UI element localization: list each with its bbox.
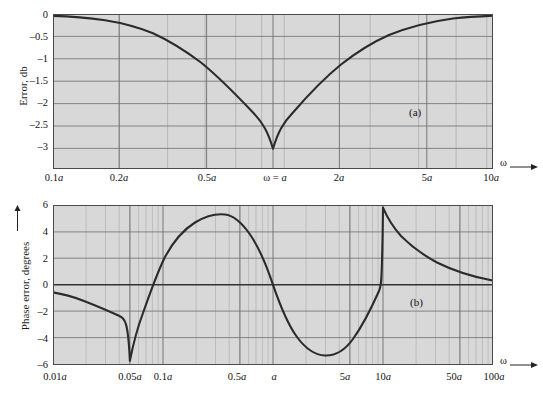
panel-b-plot-area bbox=[53, 205, 493, 365]
panel-b-ytick-1: 4 bbox=[18, 226, 48, 237]
panel-b-ytick-6: –6 bbox=[18, 359, 48, 370]
panel-a-ytick-1-text: –0.5 bbox=[30, 31, 48, 42]
panel-b-xtick-2: 0.1a bbox=[142, 371, 184, 382]
panel-a-ytick-5: –2.5 bbox=[18, 119, 48, 130]
panel-b-xtick-3-text: 0.5a bbox=[228, 371, 246, 382]
panel-b-ytick-0: 6 bbox=[18, 199, 48, 210]
panel-b-omega-axis-label: ω bbox=[500, 355, 507, 366]
panel-b-ytick-5-text: –4 bbox=[38, 333, 49, 344]
panel-a-xtick-2: 0.5a bbox=[184, 172, 230, 183]
panel-b-xtick-0-text: 0.01a bbox=[43, 371, 67, 382]
panel-a-xtick-4: 2a bbox=[316, 172, 362, 183]
panel-b-tag-text: (b) bbox=[410, 296, 423, 308]
panel-b-xtick-6: 10a bbox=[365, 371, 401, 382]
panel-a-xtick-0: 0.1a bbox=[31, 172, 77, 183]
panel-a-xtick-6-text: 10a bbox=[483, 172, 499, 183]
panel-b-ytick-2-text: 2 bbox=[43, 253, 48, 264]
panel-b-xtick-1-text: 0.05a bbox=[118, 371, 142, 382]
panel-b-ytick-1-text: 4 bbox=[43, 226, 48, 237]
panel-a-xtick-0-text: 0.1a bbox=[45, 172, 63, 183]
panel-a: Error, db 0 –0.5 –1 –1.5 –2 –2.5 –3 bbox=[0, 0, 543, 192]
panel-a-ytick-0: 0 bbox=[18, 9, 48, 20]
panel-b-xtick-0: 0.01a bbox=[30, 371, 80, 382]
panel-b-omega-symbol: ω bbox=[500, 355, 507, 366]
panel-a-ytick-2: –1 bbox=[18, 53, 48, 64]
panel-a-xtick-1: 0.2a bbox=[96, 172, 142, 183]
panel-a-ytick-3: –1.5 bbox=[18, 75, 48, 86]
panel-b: Phase error, degrees 6 4 2 0 –2 –4 –6 bbox=[0, 195, 543, 407]
panel-b-xtick-4-text: a bbox=[271, 371, 276, 382]
panel-a-tag: (a) bbox=[409, 106, 421, 118]
panel-a-ytick-1: –0.5 bbox=[18, 31, 48, 42]
figure-bode-error-plots: Error, db 0 –0.5 –1 –1.5 –2 –2.5 –3 bbox=[0, 0, 543, 407]
panel-a-ytick-6: –3 bbox=[18, 141, 48, 152]
panel-b-omega-arrow-icon bbox=[510, 361, 538, 369]
panel-a-omega-symbol: ω bbox=[500, 157, 507, 168]
panel-b-xtick-5-text: 5a bbox=[340, 371, 351, 382]
panel-a-omega-axis-label: ω bbox=[500, 157, 507, 168]
panel-b-ytick-3-text: 0 bbox=[43, 279, 48, 290]
panel-b-xtick-2-text: 0.1a bbox=[154, 371, 172, 382]
panel-b-tag: (b) bbox=[410, 296, 423, 308]
panel-a-omega-arrow-icon bbox=[510, 163, 538, 171]
panel-a-ytick-5-text: –2.5 bbox=[30, 119, 48, 130]
panel-b-ytick-3: 0 bbox=[18, 279, 48, 290]
panel-a-ytick-6-text: –3 bbox=[38, 141, 49, 152]
panel-a-xtick-4-text: 2a bbox=[334, 172, 345, 183]
panel-b-ytick-2: 2 bbox=[18, 253, 48, 264]
panel-b-xtick-5: 5a bbox=[330, 371, 360, 382]
panel-a-plot-area bbox=[53, 14, 493, 169]
panel-b-ytick-4-text: –2 bbox=[38, 306, 49, 317]
panel-a-xtick-6: 10a bbox=[468, 172, 514, 183]
panel-b-xtick-8-text: 100a bbox=[484, 371, 505, 382]
panel-a-xtick-2-text: 0.5a bbox=[198, 172, 216, 183]
panel-a-ytick-3-text: –1.5 bbox=[30, 75, 48, 86]
panel-b-ytick-0-text: 6 bbox=[43, 199, 48, 210]
panel-a-xtick-3: ω = a bbox=[248, 172, 302, 183]
panel-b-ytick-6-text: –6 bbox=[38, 359, 49, 370]
panel-a-ytick-4-text: –2 bbox=[38, 97, 49, 108]
panel-b-xtick-3: 0.5a bbox=[215, 371, 259, 382]
panel-b-ytick-5: –4 bbox=[18, 333, 48, 344]
panel-a-tag-text: (a) bbox=[409, 106, 421, 118]
panel-a-ytick-2-text: –1 bbox=[38, 53, 49, 64]
panel-a-ytick-0-text: 0 bbox=[43, 9, 48, 20]
panel-b-xtick-7: 50a bbox=[436, 371, 472, 382]
panel-a-ytick-4: –2 bbox=[18, 97, 48, 108]
panel-b-xtick-7-text: 50a bbox=[446, 371, 462, 382]
panel-a-xtick-5-text: 5a bbox=[422, 172, 433, 183]
panel-a-xtick-1-text: 0.2a bbox=[110, 172, 128, 183]
panel-a-xtick-3-text: ω = a bbox=[263, 172, 286, 183]
panel-b-xtick-6-text: 10a bbox=[375, 371, 391, 382]
panel-a-xtick-5: 5a bbox=[404, 172, 450, 183]
panel-b-xtick-8: 100a bbox=[473, 371, 515, 382]
panel-b-xtick-4: a bbox=[259, 371, 289, 382]
panel-b-ytick-4: –2 bbox=[18, 306, 48, 317]
